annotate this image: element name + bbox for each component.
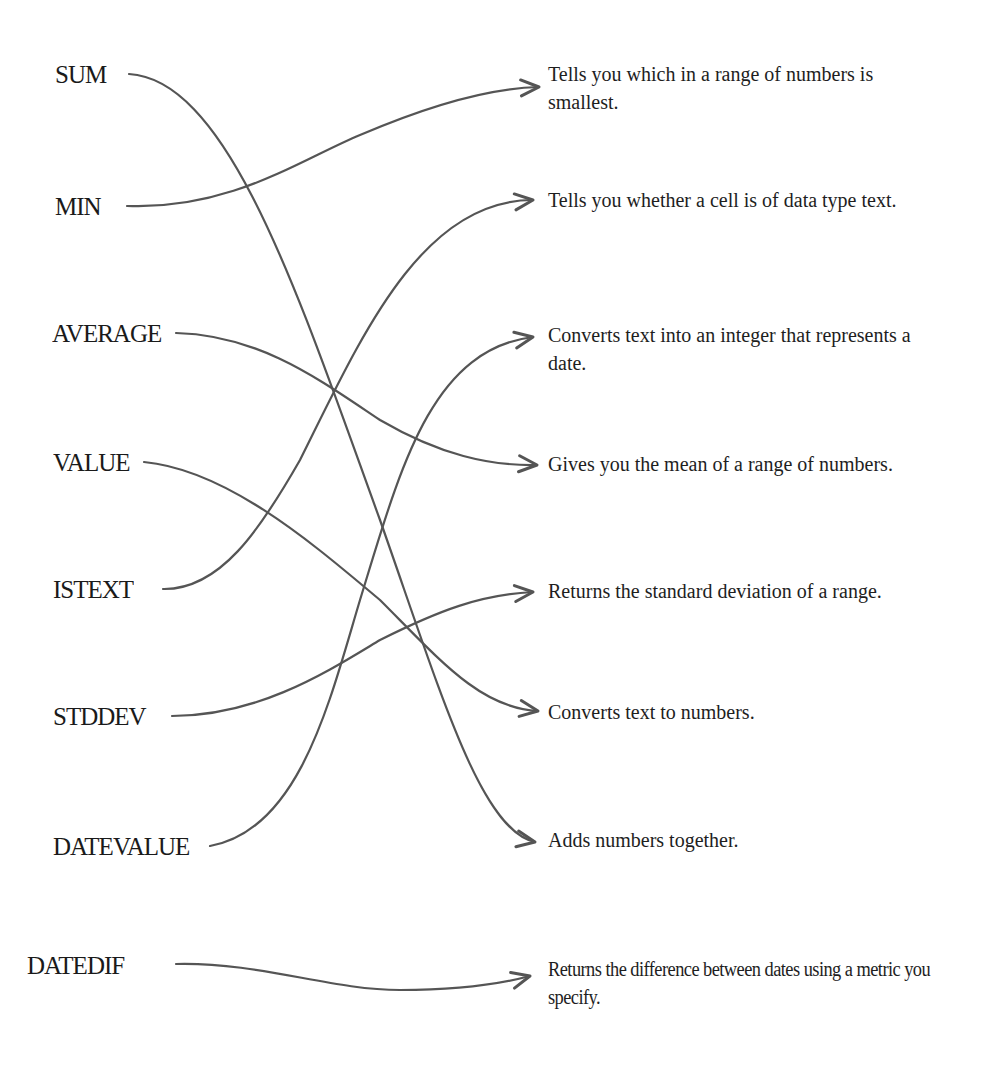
function-value: VALUE	[53, 448, 129, 477]
connector-datedif	[176, 964, 530, 990]
connector-average	[176, 333, 537, 465]
description-stddev: Returns the standard deviation of a rang…	[548, 577, 948, 605]
description-min: Tells you which in a range of numbers is…	[548, 60, 948, 116]
description-sum: Adds numbers together.	[548, 826, 948, 854]
function-datedif: DATEDIF	[27, 951, 124, 980]
description-istext: Tells you whether a cell is of data type…	[548, 186, 948, 214]
function-istext: ISTEXT	[53, 575, 133, 604]
function-datevalue: DATEVALUE	[53, 832, 189, 861]
connector-value	[144, 462, 538, 711]
description-datedif: Returns the difference between dates usi…	[548, 955, 953, 1011]
function-min: MIN	[55, 192, 101, 221]
function-average: AVERAGE	[52, 319, 161, 348]
function-stddev: STDDEV	[53, 702, 146, 731]
description-average: Gives you the mean of a range of numbers…	[548, 450, 948, 478]
description-value: Converts text to numbers.	[548, 698, 948, 726]
connector-istext	[163, 200, 533, 589]
matching-diagram: SUM MIN AVERAGE VALUE ISTEXT STDDEV DATE…	[0, 0, 997, 1074]
connector-stddev	[172, 592, 533, 716]
connector-lines	[0, 0, 997, 1074]
function-sum: SUM	[55, 60, 106, 89]
description-datevalue: Converts text into an integer that repre…	[548, 321, 948, 377]
